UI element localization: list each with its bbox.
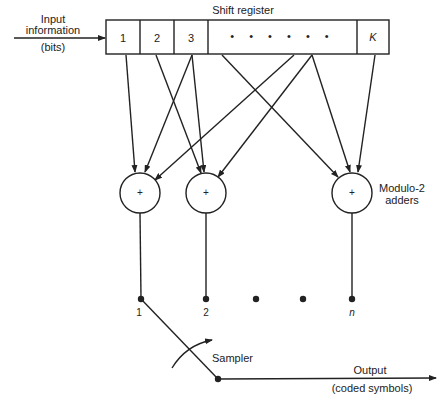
- tap-n-label: n: [345, 307, 359, 319]
- output-label-line2: (coded symbols): [322, 382, 422, 394]
- cell-3: 3: [174, 32, 208, 44]
- adder-n-symbol: +: [344, 187, 360, 199]
- input-label-line3: (bits): [20, 41, 86, 53]
- cell-1: 1: [106, 32, 140, 44]
- input-label-line2: information: [14, 24, 92, 36]
- tap-n: [349, 296, 355, 302]
- sampler-output-node: [215, 376, 221, 382]
- tap-1: [138, 296, 144, 302]
- tap-ellipsis-2: [300, 296, 306, 302]
- adder-1-symbol: +: [132, 187, 148, 199]
- sampler-label: Sampler: [212, 352, 253, 364]
- cell-2: 2: [140, 32, 174, 44]
- adders-label-line2: adders: [372, 194, 432, 206]
- sampler-rotation-arrow: [172, 340, 212, 368]
- adders-label-line1: Modulo-2: [372, 182, 432, 194]
- tap-1-label: 1: [132, 307, 146, 319]
- adder-2-symbol: +: [198, 187, 214, 199]
- shift-register-title: Shift register: [183, 4, 303, 16]
- output-label-line1: Output: [330, 364, 410, 376]
- tap-ellipsis-1: [253, 296, 259, 302]
- tap-2: [203, 296, 209, 302]
- cell-ellipsis: • • • • • •: [208, 30, 357, 42]
- cell-K: K: [357, 31, 389, 43]
- tap-2-label: 2: [199, 307, 213, 319]
- output-arrow: [218, 378, 436, 379]
